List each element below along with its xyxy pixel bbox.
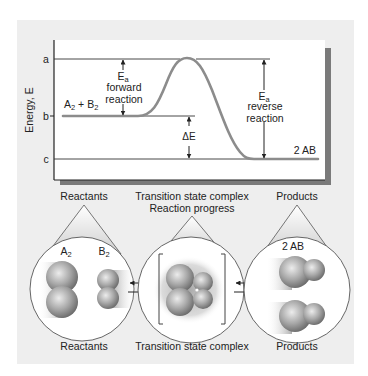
stage-transition-bottom-label: Transition state complex [135,340,249,352]
x-axis-label: Reaction progress [149,202,234,214]
forward-ea-line1: forward [106,81,141,93]
level-c-label: c [43,153,48,165]
reactants-energy-label: A2 + B2 [64,98,98,112]
activated-complex-haze [153,256,225,324]
reverse-ea-line2: reaction [246,112,284,124]
stage-products-bottom-label: Products [276,340,317,352]
stage-products-top-label: Products [276,190,317,202]
level-a-label: a [43,53,49,65]
products-molecule-label: 2 AB [282,240,304,252]
y-axis-label: Energy, E [23,87,35,132]
reverse-ea-line1: reverse [247,100,282,112]
stage-transition-top-label: Transition state complex [135,190,249,202]
forward-ea-line2: reaction [105,93,143,105]
stage-reactants-top-label: Reactants [60,190,107,202]
delta-e-label: ΔE [182,131,196,142]
products-energy-label: 2 AB [294,144,316,156]
level-b-label: b [43,110,49,122]
stage-reactants-bottom-label: Reactants [60,340,107,352]
reaction-energy-diagram-figure: Energy, E a b c A2 + B2 Ea forward react… [0,0,368,376]
